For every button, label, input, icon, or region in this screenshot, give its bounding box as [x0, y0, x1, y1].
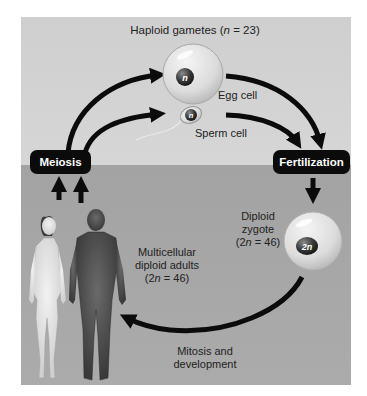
sperm-nucleus-label: n [189, 111, 194, 120]
mitosis-development-label: Mitosis and development [160, 345, 250, 371]
egg-cell: n [163, 44, 223, 104]
meiosis-label: Meiosis [39, 156, 81, 168]
fertilization-box: Fertilization [273, 150, 350, 174]
female-figure [29, 216, 66, 378]
zygote-nucleus-label: 2n [301, 242, 313, 252]
haploid-gametes-heading: Haploid gametes (n = 23) [110, 24, 280, 36]
egg-cell-label: Egg cell [218, 89, 278, 101]
arrow-meiosis-to-sperm [85, 114, 158, 153]
sperm-cell: n [136, 104, 204, 140]
sperm-cell-label: Sperm cell [195, 127, 265, 139]
meiosis-box: Meiosis [30, 150, 91, 174]
diploid-zygote-label: Diploid zygote (2n = 46) [228, 210, 288, 249]
diploid-adults-label: Multicellular diploid adults (2n = 46) [122, 246, 212, 285]
arrow-zygote-to-adults [127, 277, 302, 331]
diagram-graphics: n n 2n [0, 0, 367, 396]
male-figure [69, 209, 126, 380]
fertilization-label: Fertilization [279, 156, 344, 168]
egg-nucleus-label: n [182, 73, 188, 83]
zygote-cell: 2n [284, 212, 342, 270]
